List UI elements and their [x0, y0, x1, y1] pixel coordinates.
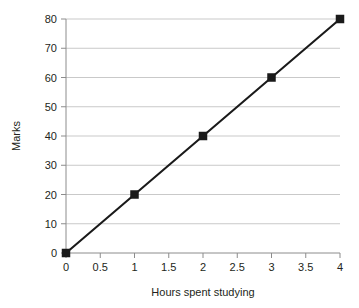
y-tick-label: 80 — [45, 13, 57, 25]
x-tick-label: 1 — [131, 261, 137, 273]
x-tick-label: 0.5 — [93, 261, 108, 273]
y-tick-label-group: 01020304050607080 — [45, 13, 57, 259]
data-point-marker — [336, 15, 345, 24]
y-tick-label: 10 — [45, 218, 57, 230]
data-point-marker — [62, 249, 71, 258]
x-tick-label: 2.5 — [230, 261, 245, 273]
y-tick-label: 0 — [51, 247, 57, 259]
x-tick-label-group: 00.511.522.533.54 — [63, 261, 343, 273]
y-tick-label: 40 — [45, 130, 57, 142]
x-tick-label: 3 — [268, 261, 274, 273]
y-tick-label: 60 — [45, 72, 57, 84]
x-tick-label: 0 — [63, 261, 69, 273]
line-chart-plot: 01020304050607080 00.511.522.533.54 Hour… — [0, 0, 359, 308]
y-tick-label: 50 — [45, 101, 57, 113]
y-tick-label: 30 — [45, 159, 57, 171]
x-tick-label: 2 — [200, 261, 206, 273]
data-point-marker — [130, 190, 139, 199]
x-tick-label: 1.5 — [161, 261, 176, 273]
y-axis-title: Marks — [10, 121, 22, 151]
x-tick-label: 4 — [337, 261, 343, 273]
y-tick-label: 70 — [45, 42, 57, 54]
x-axis-title: Hours spent studying — [151, 286, 254, 298]
data-point-marker — [199, 132, 208, 141]
x-tick-label: 3.5 — [298, 261, 313, 273]
data-point-marker — [267, 73, 276, 82]
chart-container: 01020304050607080 00.511.522.533.54 Hour… — [0, 0, 359, 308]
y-tick-label: 20 — [45, 189, 57, 201]
